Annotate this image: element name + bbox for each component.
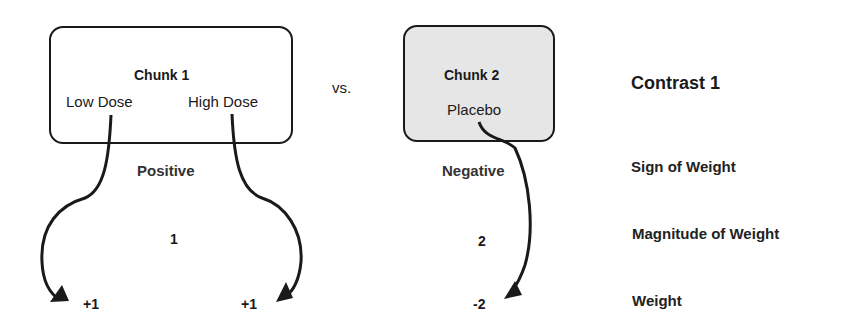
chunk2-magnitude: 2: [478, 233, 486, 249]
arrow-placebo: [479, 122, 530, 291]
versus-label: vs.: [332, 79, 351, 96]
arrow-high-dose: [232, 114, 301, 297]
chunk1-title: Chunk 1: [134, 67, 189, 83]
weight-low-dose: +1: [83, 296, 99, 312]
chunk2-item-placebo: Placebo: [447, 101, 501, 118]
magnitude-of-weight-label: Magnitude of Weight: [632, 225, 779, 242]
chunk1-item-high-dose: High Dose: [188, 93, 258, 110]
chunk1-sign: Positive: [137, 162, 195, 179]
sign-of-weight-label: Sign of Weight: [631, 158, 736, 175]
chunk2-sign: Negative: [442, 162, 505, 179]
weight-placebo: -2: [473, 296, 485, 312]
chunk1-magnitude: 1: [170, 231, 178, 247]
contrast-title: Contrast 1: [631, 73, 720, 94]
chunk1-item-low-dose: Low Dose: [66, 93, 133, 110]
weight-label: Weight: [632, 292, 682, 309]
weight-high-dose: +1: [241, 296, 257, 312]
arrow-low-dose: [42, 115, 111, 300]
chunk2-title: Chunk 2: [444, 67, 499, 83]
arrowhead-placebo: [504, 281, 522, 299]
